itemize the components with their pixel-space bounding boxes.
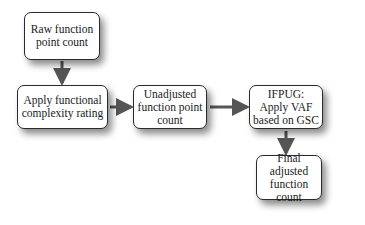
- node-raw-function-point-count: Raw function point count: [24, 12, 100, 60]
- node-label: IFPUG: Apply VAF based on GSC: [253, 88, 319, 127]
- node-label: Apply functional complexity rating: [21, 94, 104, 120]
- node-unadjusted-function-point-count: Unadjusted function point count: [133, 85, 207, 129]
- node-label: Unadjusted function point count: [137, 88, 203, 127]
- node-ifpug-apply-vaf: IFPUG: Apply VAF based on GSC: [249, 85, 323, 129]
- node-label: Raw function point count: [28, 23, 96, 49]
- node-apply-functional-complexity-rating: Apply functional complexity rating: [17, 85, 108, 129]
- node-label: Final adjusted function count: [260, 152, 318, 204]
- node-final-adjusted-function-count: Final adjusted function count: [256, 155, 322, 200]
